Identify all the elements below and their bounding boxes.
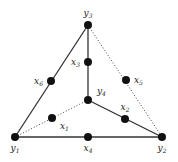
node-x6 <box>47 77 55 85</box>
graph-diagram: y1y2y3y4x1x2x3x4x5x6 <box>0 0 178 162</box>
label-x3: x3 <box>71 57 80 68</box>
label-x2: x2 <box>121 102 130 113</box>
label-x1: x1 <box>60 121 69 132</box>
node-y3 <box>84 21 92 29</box>
node-y1 <box>11 133 19 141</box>
label-x4: x4 <box>84 143 93 154</box>
node-x5 <box>122 76 130 84</box>
label-y3: y3 <box>83 8 93 19</box>
node-x4 <box>84 133 92 141</box>
label-x5: x5 <box>134 75 143 86</box>
label-y4: y4 <box>96 86 106 97</box>
node-x1 <box>48 114 56 122</box>
label-y2: y2 <box>157 143 167 154</box>
label-y1: y1 <box>10 143 20 154</box>
node-x3 <box>84 58 92 66</box>
node-y4 <box>84 96 92 104</box>
node-y2 <box>158 133 166 141</box>
label-x6: x6 <box>34 76 43 87</box>
node-x2 <box>121 115 129 123</box>
